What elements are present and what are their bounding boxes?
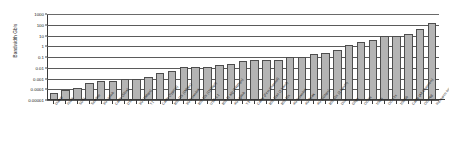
x-axis-tick-label: 4G Peak	[305, 104, 308, 106]
bar-slot	[72, 14, 84, 100]
x-axis-tick-label: 3G (1Mbps)	[139, 104, 142, 106]
y-axis-tick-label: 1000	[34, 12, 44, 17]
bars-layer	[47, 14, 439, 100]
bar-slot	[95, 14, 107, 100]
x-axis-tick-label: DS1	[127, 104, 130, 106]
bar-slot	[308, 14, 320, 100]
bar-slot	[355, 14, 367, 100]
bar-slot	[367, 14, 379, 100]
x-axis-labels: DialupISDNSDSLSatellite3G UplinkCable (S…	[47, 104, 439, 153]
bar	[428, 23, 437, 100]
bar-slot	[48, 14, 60, 100]
x-axis-tick-mark	[396, 100, 397, 104]
x-axis-tick-label: Cable (Slow)	[115, 104, 118, 106]
y-axis-tick-label: 10	[39, 33, 44, 38]
x-axis-tick-label: 4G Downlink	[293, 104, 296, 106]
x-axis-tick-label: 802.11ac (1 band)	[269, 104, 272, 106]
x-axis-tick-label: Gbps	[352, 104, 355, 106]
x-axis-tick-label: 802.11b (11Mbps)	[198, 104, 201, 106]
x-axis-tick-mark	[242, 100, 243, 104]
x-axis-tick-label: Satellite	[91, 104, 94, 106]
x-axis-tick-label: 4G (1Gbps)	[317, 104, 320, 106]
bar-slot	[391, 14, 403, 100]
bar-slot	[119, 14, 131, 100]
x-axis-tick-label: T1	[150, 104, 153, 106]
bar-slot	[249, 14, 261, 100]
x-axis-tick-mark	[325, 100, 326, 104]
x-axis-tick-label: Dialup	[55, 104, 58, 106]
bar-slot	[131, 14, 143, 100]
x-axis-tick-mark	[313, 100, 314, 104]
x-axis-tick-label: 802.11b (1Mbps)	[174, 104, 177, 106]
bar	[345, 45, 354, 100]
y-axis-tick-label: 1	[42, 44, 44, 49]
bar-slot	[320, 14, 332, 100]
bar	[357, 42, 366, 100]
x-axis-tick-mark	[431, 100, 432, 104]
bar	[156, 73, 165, 100]
x-axis-tick-mark	[231, 100, 232, 104]
x-axis-tick-mark	[278, 100, 279, 104]
x-axis-tick-label: 100Gb	[400, 104, 403, 106]
y-axis-title: Bandwidth Gb/s	[13, 1, 18, 81]
x-axis-tick-label: 802.11n	[281, 104, 284, 106]
x-axis-tick-label: OC-12x	[388, 104, 391, 106]
bar	[392, 36, 401, 101]
x-axis-tick-label: Research Internet + Fiber	[436, 104, 439, 106]
x-axis-tick-label: ISDN	[67, 104, 70, 106]
bar	[250, 60, 259, 100]
x-axis-tick-mark	[384, 100, 385, 104]
x-axis-tick-mark	[361, 100, 362, 104]
bandwidth-bar-chart: Bandwidth Gb/s 10001001010.10.010.0010.0…	[0, 0, 449, 153]
x-axis-tick-mark	[301, 100, 302, 104]
bar-slot	[190, 14, 202, 100]
x-axis-tick-label: T3	[246, 104, 249, 106]
bar-slot	[296, 14, 308, 100]
bar	[380, 36, 389, 101]
x-axis-tick-label: 4G Uplink	[234, 104, 237, 106]
x-axis-tick-label: 3G Downlink	[186, 104, 189, 106]
x-axis-tick-label: OC-3x	[364, 104, 367, 106]
bar-slot	[379, 14, 391, 100]
y-axis-tick-label: 0.0001	[31, 87, 44, 92]
x-axis-tick-mark	[219, 100, 220, 104]
x-axis-tick-label: Cable (Typical)	[162, 104, 165, 106]
x-axis-tick-label: Cable (First Channel)	[257, 104, 260, 106]
x-axis-tick-label: Disk	[341, 104, 344, 106]
x-axis-tick-mark	[408, 100, 409, 104]
y-axis-tick-label: 0.001	[33, 76, 44, 81]
bar-slot	[107, 14, 119, 100]
x-axis-tick-label: OC-768	[424, 104, 427, 106]
x-axis-tick-mark	[372, 100, 373, 104]
x-axis-tick-label: Cable (All Channels)	[412, 104, 415, 106]
x-axis-tick-mark	[337, 100, 338, 104]
x-axis-tick-label: USB 1.1	[210, 104, 213, 106]
y-axis-tick-label: 0.1	[38, 55, 44, 60]
x-axis-tick-mark	[290, 100, 291, 104]
bar-slot	[83, 14, 95, 100]
bar	[369, 40, 378, 100]
x-axis-tick-label: 3G Uplink	[103, 104, 106, 106]
bar-slot	[213, 14, 225, 100]
x-axis-tick-label: 802.11n (3 bands)	[329, 104, 332, 106]
bar-slot	[154, 14, 166, 100]
bar-slot	[60, 14, 72, 100]
bar	[404, 34, 413, 100]
y-axis-tick-label: 100	[37, 22, 44, 27]
x-axis-tick-label: 10Gb	[376, 104, 379, 106]
bar-slot	[143, 14, 155, 100]
x-axis-tick-label: SDSL	[79, 104, 82, 106]
x-axis-tick-mark	[349, 100, 350, 104]
plot-area: 10001001010.10.010.0010.00010.00001	[47, 14, 439, 100]
y-axis-tick-label: 0.00001	[28, 98, 44, 103]
bar	[132, 79, 141, 101]
y-axis-tick-label: 0.01	[35, 65, 44, 70]
bar-slot	[402, 14, 414, 100]
x-axis-tick-mark	[420, 100, 421, 104]
x-axis-tick-label: 802.11 a/g (54Mbps)	[222, 104, 225, 106]
